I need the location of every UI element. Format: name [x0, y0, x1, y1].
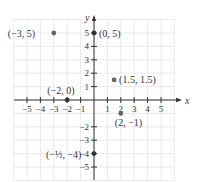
y-axis-arrow-icon [92, 15, 96, 21]
data-point [65, 98, 70, 103]
x-tick-label: −1 [76, 104, 86, 114]
point-label: (−3, 5) [8, 28, 35, 40]
coordinate-plane: xy −5−4−3−2−11234554321−2−3−4−5 (−3, 5)(… [0, 0, 199, 182]
point-label: (2, −1) [115, 117, 142, 129]
y-tick-label: −5 [79, 162, 89, 172]
data-point [51, 31, 56, 36]
data-point [112, 78, 117, 83]
x-tick-label: −5 [22, 104, 32, 114]
y-tick-label: 5 [85, 28, 90, 38]
x-tick-label: −2 [62, 104, 72, 114]
y-tick-label: 3 [85, 55, 90, 65]
x-tick-label: 3 [132, 104, 137, 114]
data-point [118, 111, 123, 116]
x-tick-label: −3 [49, 104, 59, 114]
y-tick-label: 2 [85, 68, 90, 78]
point-label: (−2, 0) [47, 85, 74, 97]
data-point [92, 31, 97, 36]
y-tick-label: 4 [85, 41, 90, 51]
x-tick-label: 1 [105, 104, 110, 114]
x-tick-label: 4 [145, 104, 150, 114]
point-label: (1.5, 1.5) [119, 74, 156, 86]
y-tick-label: 1 [85, 82, 90, 92]
x-axis-label: x [184, 95, 190, 106]
y-axis-label: y [84, 12, 90, 23]
point-label: (−½, −4) [46, 149, 81, 161]
y-tick-label: −3 [79, 135, 89, 145]
x-tick-label: −4 [36, 104, 46, 114]
y-tick-label: −2 [79, 122, 89, 132]
point-label: (0, 5) [99, 28, 121, 40]
x-tick-label: 5 [159, 104, 164, 114]
data-point [92, 151, 97, 156]
x-axis-arrow-icon [176, 98, 182, 102]
